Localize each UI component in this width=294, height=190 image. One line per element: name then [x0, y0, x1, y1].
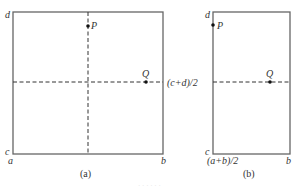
panel-b-point-q	[268, 80, 272, 84]
diagram-canvas: P Q d c a b (a) P Q d (c+d)/2 c (a+b)/2 …	[0, 0, 294, 190]
panel-b-label-d: d	[205, 9, 211, 20]
panel-a: P Q d c a b (a)	[5, 9, 166, 180]
panel-a-label-p: P	[90, 20, 97, 31]
panel-a-point-p	[86, 24, 90, 28]
panel-a-point-q	[144, 80, 148, 84]
panel-a-label-q: Q	[142, 68, 150, 79]
panel-a-label-d: d	[5, 9, 11, 20]
panel-b-label-b: b	[286, 155, 291, 166]
panel-b: P Q d (c+d)/2 c (a+b)/2 b (b)	[167, 9, 291, 180]
panel-b-caption: (b)	[243, 168, 255, 180]
panel-b-label-mid-y: (c+d)/2	[167, 77, 198, 89]
panel-a-caption: (a)	[80, 168, 91, 180]
panel-b-label-p: P	[216, 20, 223, 31]
footer-faint-text: · · · · · ·	[138, 182, 161, 190]
panel-a-label-b: b	[161, 155, 166, 166]
panel-b-label-mid-x: (a+b)/2	[207, 155, 238, 167]
panel-b-frame	[213, 12, 290, 154]
panel-b-label-q: Q	[266, 68, 274, 79]
panel-b-point-p	[211, 23, 215, 27]
panel-a-label-a: a	[8, 155, 13, 166]
